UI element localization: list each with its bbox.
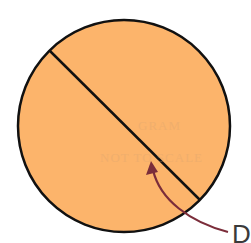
diameter-label: D bbox=[232, 219, 251, 243]
circle-diameter-diagram: GRAM NOT TO SCALE D bbox=[0, 0, 251, 243]
bleed-through-text: NOT TO SCALE bbox=[100, 150, 203, 166]
diagram-canvas bbox=[0, 0, 251, 243]
bleed-through-text: GRAM bbox=[138, 118, 181, 134]
